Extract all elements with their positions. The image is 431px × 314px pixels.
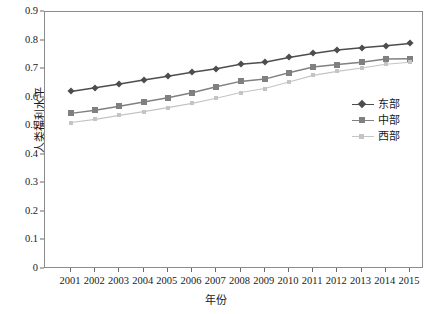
data-point bbox=[310, 64, 316, 70]
legend-item-西部[interactable]: 西部 bbox=[352, 128, 424, 144]
x-tick-label: 2003 bbox=[108, 276, 129, 287]
legend-item-中部[interactable]: 中部 bbox=[352, 112, 424, 128]
x-tick-mark bbox=[118, 268, 119, 272]
data-point bbox=[189, 90, 195, 96]
y-tick-label: 0.3 bbox=[25, 177, 38, 188]
y-tick-label: 0 bbox=[33, 263, 38, 274]
data-point bbox=[166, 106, 170, 110]
x-tick-mark bbox=[70, 268, 71, 272]
x-tick-mark bbox=[288, 268, 289, 272]
legend-label: 东部 bbox=[378, 99, 400, 110]
x-tick-label: 2014 bbox=[374, 276, 395, 287]
x-tick-mark bbox=[361, 268, 362, 272]
data-point bbox=[359, 59, 365, 65]
x-tick-label: 2011 bbox=[302, 276, 323, 287]
x-tick-mark bbox=[143, 268, 144, 272]
data-point bbox=[141, 99, 147, 105]
data-point bbox=[335, 69, 339, 73]
x-tick-label: 2006 bbox=[181, 276, 202, 287]
legend-label: 中部 bbox=[378, 115, 400, 126]
x-tick-label: 2012 bbox=[326, 276, 347, 287]
legend: 东部中部西部 bbox=[352, 96, 424, 144]
data-point bbox=[334, 62, 340, 68]
x-axis: 2001200220032004200520062007200820092010… bbox=[44, 268, 423, 292]
x-tick-label: 2004 bbox=[132, 276, 153, 287]
x-tick-mark bbox=[94, 268, 95, 272]
y-tick-label: 0.9 bbox=[25, 6, 38, 17]
legend-swatch-icon bbox=[352, 115, 374, 125]
data-point bbox=[384, 62, 388, 66]
x-tick-mark bbox=[264, 268, 265, 272]
data-point bbox=[238, 78, 244, 84]
data-point bbox=[383, 56, 389, 62]
y-tick-label: 0.2 bbox=[25, 206, 38, 217]
x-tick-label: 2010 bbox=[277, 276, 298, 287]
data-point bbox=[68, 110, 74, 116]
data-point bbox=[239, 91, 243, 95]
data-point bbox=[286, 70, 292, 76]
x-tick-mark bbox=[240, 268, 241, 272]
data-point bbox=[214, 96, 218, 100]
data-point bbox=[311, 73, 315, 77]
x-tick-label: 2015 bbox=[399, 276, 420, 287]
x-tick-mark bbox=[191, 268, 192, 272]
legend-swatch-icon bbox=[352, 131, 374, 141]
x-tick-label: 2001 bbox=[60, 276, 81, 287]
x-tick-label: 2002 bbox=[84, 276, 105, 287]
x-tick-label: 2013 bbox=[350, 276, 371, 287]
legend-swatch-icon bbox=[352, 99, 374, 109]
data-point bbox=[262, 76, 268, 82]
data-point bbox=[69, 121, 73, 125]
data-point bbox=[165, 95, 171, 101]
x-tick-label: 2008 bbox=[229, 276, 250, 287]
y-tick-label: 0.7 bbox=[25, 63, 38, 74]
x-tick-label: 2005 bbox=[156, 276, 177, 287]
data-point bbox=[213, 84, 219, 90]
data-point bbox=[287, 80, 291, 84]
x-tick-mark bbox=[215, 268, 216, 272]
data-point bbox=[408, 60, 412, 64]
x-tick-mark bbox=[409, 268, 410, 272]
data-point bbox=[116, 103, 122, 109]
legend-item-东部[interactable]: 东部 bbox=[352, 96, 424, 112]
x-tick-mark bbox=[312, 268, 313, 272]
data-point bbox=[117, 113, 121, 117]
data-point bbox=[93, 117, 97, 121]
x-tick-mark bbox=[167, 268, 168, 272]
legend-label: 西部 bbox=[378, 131, 400, 142]
y-tick-label: 0.8 bbox=[25, 34, 38, 45]
data-point bbox=[360, 66, 364, 70]
x-tick-label: 2007 bbox=[205, 276, 226, 287]
x-tick-mark bbox=[336, 268, 337, 272]
data-point bbox=[92, 107, 98, 113]
data-point bbox=[142, 110, 146, 114]
x-tick-label: 2009 bbox=[253, 276, 274, 287]
line-chart: 00.10.20.30.40.50.60.70.80.9 人类福利水平 2001… bbox=[0, 0, 431, 314]
x-tick-mark bbox=[385, 268, 386, 272]
x-axis-title: 年份 bbox=[0, 291, 431, 307]
data-point bbox=[190, 101, 194, 105]
data-point bbox=[263, 87, 267, 91]
y-tick-label: 0.1 bbox=[25, 234, 38, 245]
